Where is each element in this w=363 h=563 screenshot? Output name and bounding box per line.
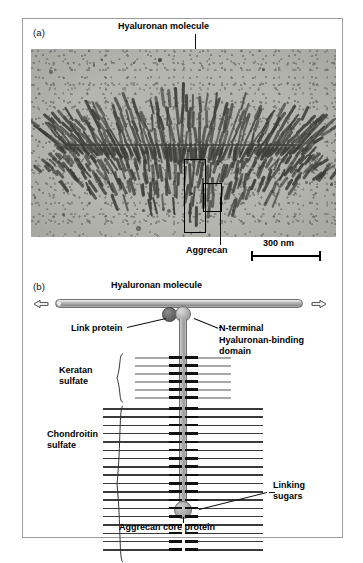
linking-sugar-stub (169, 540, 182, 543)
chondroitin-sulfate-chain (187, 499, 263, 501)
chondroitin-sulfate-chain (187, 483, 263, 485)
chondroitin-sulfate-label: Chondroitin sulfate (47, 429, 98, 451)
linking-sugar-stub (185, 424, 198, 427)
linking-sugar-stub (185, 548, 198, 551)
nterminal-domain-label: N-terminal Hyaluronan-binding domain (219, 323, 304, 358)
keratan-sulfate-label-line1: Keratan (59, 365, 93, 376)
linking-sugar-stub (185, 449, 198, 452)
hyaluronan-molecule-label: Hyaluronan molecule (111, 280, 202, 290)
linking-sugar-stub (169, 499, 182, 502)
nterminal-domain-leader (194, 318, 218, 329)
linking-sugar-stub (169, 396, 182, 399)
linking-sugars-label-line2: sugars (273, 491, 305, 502)
scale-bar-tick-right (319, 251, 321, 261)
hyaluronan-right-arrow-icon (311, 299, 327, 309)
linking-sugar-stub (185, 474, 198, 477)
linking-sugar-stub (169, 449, 182, 452)
keratan-sulfate-label: Keratan sulfate (59, 365, 93, 387)
linking-sugar-stub (169, 388, 182, 391)
micrograph-speckle (289, 135, 291, 137)
panel-a-hyaluronan-label: Hyaluronan molecule (118, 21, 209, 31)
panel-b: (b) Hyaluronan molecule Link protein N-t… (23, 277, 344, 539)
linking-sugar-stub (185, 465, 198, 468)
aggrecan-core-protein-label: Aggrecan core protein (119, 522, 215, 532)
linking-sugar-stub (169, 380, 182, 383)
panel-a: (a) Hyaluronan molecule Aggrecan 300 nm (23, 19, 344, 276)
linking-sugar-stub (185, 364, 198, 367)
chondroitin-sulfate-chain (187, 433, 263, 435)
micrograph-speckle (330, 183, 333, 186)
linking-sugar-stub (169, 548, 182, 551)
linking-sugar-stub (169, 515, 182, 518)
linking-sugar-stub (185, 441, 198, 444)
hyaluronan-rod-cap (57, 301, 61, 306)
linking-sugar-stub (169, 532, 182, 535)
scale-bar-tick-left (251, 251, 253, 261)
linking-sugar-stub (169, 465, 182, 468)
linking-sugar-stub (185, 499, 198, 502)
aggrecan-label: Aggrecan (186, 245, 228, 255)
linking-sugar-stub (169, 372, 182, 375)
linking-sugar-stub (185, 507, 198, 510)
micrograph-speckle (232, 209, 235, 212)
micrograph-speckle (62, 213, 64, 215)
keratan-sulfate-brace (115, 353, 125, 403)
linking-sugar-stub (185, 457, 198, 460)
linking-sugars-label: Linking sugars (273, 480, 305, 502)
nterminal-domain-label-line1: N-terminal (219, 323, 304, 335)
chondroitin-sulfate-label-line2: sulfate (47, 440, 98, 451)
linking-sugar-stub (185, 356, 198, 359)
chondroitin-sulfate-chain (187, 533, 263, 535)
linking-sugar-stub (185, 540, 198, 543)
micrograph-aggrecan-filament (191, 94, 193, 111)
chondroitin-sulfate-label-line1: Chondroitin (47, 429, 98, 440)
linking-sugar-stub (185, 372, 198, 375)
chondroitin-sulfate-chain (187, 408, 263, 410)
micrograph-speckle (136, 226, 141, 231)
linking-sugar-stub (185, 532, 198, 535)
linking-sugar-stub (185, 432, 198, 435)
chondroitin-sulfate-chain (187, 466, 263, 468)
scale-bar (251, 251, 321, 261)
linking-sugar-stub (185, 490, 198, 493)
chondroitin-sulfate-chain (187, 441, 263, 443)
chondroitin-sulfate-chain (187, 425, 263, 427)
chondroitin-sulfate-chain (187, 458, 263, 460)
linking-sugar-stub (169, 407, 182, 410)
micrograph-aggrecan-filament (175, 184, 177, 198)
figure-frame: (a) Hyaluronan molecule Aggrecan 300 nm … (22, 18, 343, 538)
nterminal-domain-label-line3: domain (219, 346, 304, 358)
chondroitin-sulfate-chain (187, 541, 263, 543)
linking-sugar-stub (185, 416, 198, 419)
chondroitin-sulfate-chain (187, 491, 263, 493)
linking-sugar-stub (185, 515, 198, 518)
linking-sugar-stub (185, 396, 198, 399)
linking-sugar-stub (169, 424, 182, 427)
chondroitin-sulfate-chain (187, 450, 263, 452)
linking-sugars-label-line1: Linking (273, 480, 305, 491)
linking-sugar-stub (185, 380, 198, 383)
micrograph-speckle (305, 181, 308, 184)
linking-sugar-stub (169, 432, 182, 435)
micrograph-aggrecan-filament (176, 172, 179, 186)
linking-sugar-stub (185, 388, 198, 391)
linking-sugar-stub (169, 482, 182, 485)
chondroitin-sulfate-chain (187, 416, 263, 418)
linking-sugar-stub (169, 457, 182, 460)
linking-sugar-stub (169, 416, 182, 419)
micrograph-speckle (34, 196, 36, 198)
linking-sugar-stub (169, 474, 182, 477)
panel-b-letter: (b) (33, 281, 45, 292)
linking-sugar-stub (169, 507, 182, 510)
nterminal-domain-label-line2: Hyaluronan-binding (219, 335, 304, 347)
linking-sugar-stub (169, 364, 182, 367)
linking-sugar-stub (169, 490, 182, 493)
chondroitin-sulfate-chain (187, 474, 263, 476)
linking-sugar-stub (185, 407, 198, 410)
link-protein-label: Link protein (71, 323, 123, 333)
chondroitin-sulfate-brace (115, 405, 125, 563)
micrograph-speckle (187, 149, 190, 152)
keratan-sulfate-label-line2: sulfate (59, 376, 93, 387)
micrograph-speckle (93, 64, 96, 67)
linking-sugar-stub (185, 482, 198, 485)
